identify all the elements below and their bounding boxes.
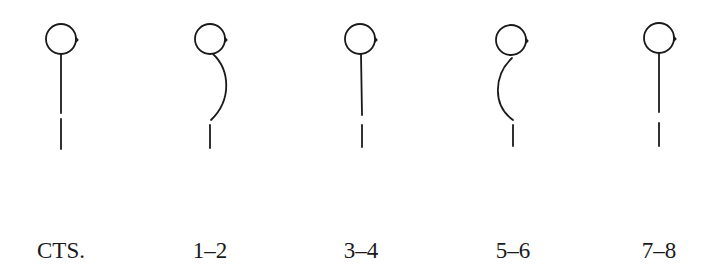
figure-label-1-2: 1–2 xyxy=(160,238,260,264)
figure-label-cts: CTS. xyxy=(11,238,111,264)
figure-5-6 xyxy=(496,25,528,146)
figure-7-8 xyxy=(644,23,676,146)
pointer-tick-icon xyxy=(526,39,528,43)
head-circle-icon xyxy=(345,24,375,54)
figure-3-4 xyxy=(345,24,377,147)
figure-label-5-6: 5–6 xyxy=(463,238,563,264)
head-circle-icon xyxy=(644,23,674,53)
figure-1-2 xyxy=(195,24,227,148)
stitch-diagram: CTS. 1–2 3–4 5–6 7–8 xyxy=(0,0,716,278)
curved-stem xyxy=(211,54,226,120)
figure-label-3-4: 3–4 xyxy=(311,238,411,264)
pointer-tick-icon xyxy=(76,38,78,42)
figure-label-7-8: 7–8 xyxy=(609,238,709,264)
figure-cts xyxy=(46,24,78,149)
curved-stem xyxy=(498,58,513,120)
head-circle-icon xyxy=(496,25,526,55)
pointer-tick-icon xyxy=(674,37,676,41)
pointer-tick-icon xyxy=(225,38,227,42)
head-circle-icon xyxy=(195,24,225,54)
diagram-canvas xyxy=(0,0,716,278)
head-circle-icon xyxy=(46,24,76,54)
pointer-tick-icon xyxy=(375,38,377,42)
upper-stem xyxy=(361,54,362,115)
